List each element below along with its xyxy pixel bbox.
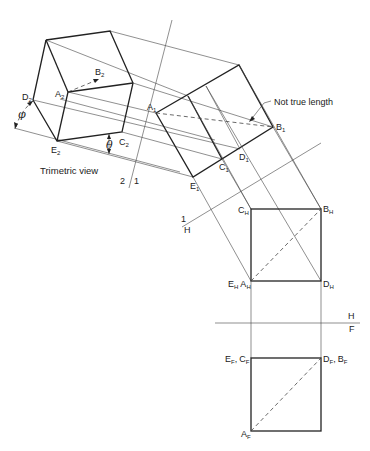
label-BH: BH (323, 204, 333, 215)
front-view (251, 358, 321, 431)
label-EF-CF: EF,CF (225, 354, 250, 365)
label-A1: A1 (147, 102, 157, 113)
orthographic-projection-diagram: 2 1 A2 B2 C2 D2 E2 φ θ Trimetric view A1… (0, 0, 370, 451)
not-true-length-annotation: Not true length (274, 97, 333, 107)
label-B1: B1 (276, 122, 286, 133)
label-EH-AH: EHAH (228, 279, 251, 290)
trimetric-view-caption: Trimetric view (40, 165, 98, 176)
label-C2: C2 (119, 137, 130, 148)
auxiliary-view-1 (156, 65, 273, 177)
phi-symbol: φ (18, 108, 26, 121)
fold-label-1: 1 (181, 214, 186, 224)
label-DH: DH (323, 279, 334, 290)
label-B2: B2 (95, 67, 105, 78)
fold-label-H: H (348, 311, 355, 321)
label-AF: AF (241, 429, 251, 440)
label-A2: A2 (55, 89, 65, 100)
label-DF-BF: DF,BF (323, 354, 348, 365)
trimetric-view (33, 31, 133, 141)
label-D2: D2 (22, 92, 33, 103)
fold-label-F: F (349, 324, 355, 334)
projectors-2-to-1 (14, 31, 273, 177)
fold-label-2: 2 (120, 176, 125, 186)
fold-label-H: H (184, 225, 191, 235)
theta-symbol: θ (106, 139, 113, 152)
fold-label-1: 1 (134, 176, 139, 186)
label-CH: CH (238, 205, 249, 216)
top-view (251, 209, 321, 281)
label-E2: E2 (51, 145, 61, 156)
